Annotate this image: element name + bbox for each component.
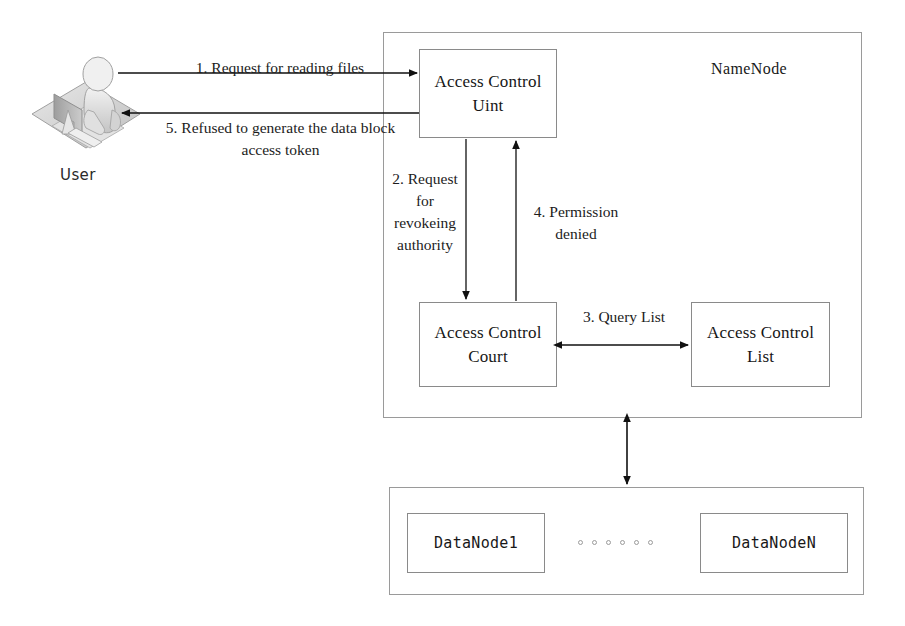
flow-2-label: 2. Request for revokeing authority <box>387 168 463 256</box>
node-datanode-first[interactable]: DataNode1 <box>407 513 545 573</box>
flow-4-label: 4. Permission denied <box>521 201 631 245</box>
node-datanode-first-label: DataNode1 <box>434 534 518 552</box>
node-access-control-court[interactable]: Access Control Court <box>419 302 557 387</box>
node-access-control-unit-label: Access Control Uint <box>434 70 541 117</box>
user-label: User <box>60 166 96 184</box>
diagram-canvas: User NameNode Access Control Uint Access… <box>0 0 905 626</box>
ellipsis-dot <box>634 540 639 545</box>
node-access-control-unit[interactable]: Access Control Uint <box>419 49 557 138</box>
user-workstation-icon <box>28 48 144 160</box>
datanode-ellipsis <box>578 540 653 545</box>
ellipsis-dot <box>648 540 653 545</box>
ellipsis-dot <box>592 540 597 545</box>
node-access-control-court-label: Access Control Court <box>434 321 541 368</box>
node-datanode-last-label: DataNodeN <box>732 534 816 552</box>
node-datanode-last[interactable]: DataNodeN <box>700 513 848 573</box>
ellipsis-dot <box>578 540 583 545</box>
ellipsis-dot <box>620 540 625 545</box>
namenode-title: NameNode <box>711 60 787 78</box>
node-access-control-list[interactable]: Access Control List <box>691 302 830 387</box>
node-access-control-list-label: Access Control List <box>707 321 814 368</box>
ellipsis-dot <box>606 540 611 545</box>
flow-5-label: 5. Refused to generate the data block ac… <box>148 117 413 161</box>
flow-3-label: 3. Query List <box>568 306 680 328</box>
flow-1-label: 1. Request for reading files <box>160 57 400 79</box>
